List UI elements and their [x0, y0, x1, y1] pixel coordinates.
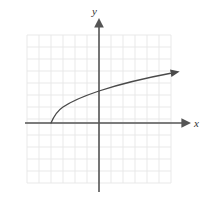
- function-curve: [51, 73, 172, 123]
- coordinate-plane-svg: y x: [0, 0, 212, 205]
- x-axis-label: x: [193, 117, 199, 129]
- y-axis-label: y: [91, 5, 97, 17]
- graph-figure: y x: [0, 0, 212, 205]
